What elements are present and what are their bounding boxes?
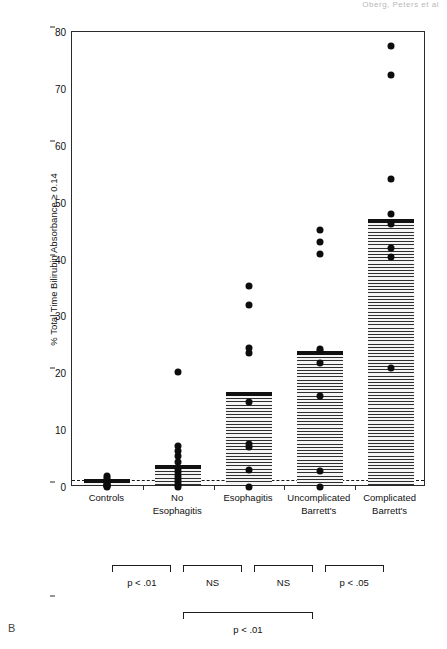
scatter-point [316, 226, 323, 233]
scatter-point [387, 245, 394, 252]
y-tick-mark [50, 140, 55, 141]
x-category-label: ComplicatedBarrett's [354, 492, 425, 517]
y-tick-label: 40 [55, 254, 72, 265]
scatter-point [387, 211, 394, 218]
scatter-point [387, 175, 394, 182]
x-category-label: Controls [71, 492, 142, 505]
scatter-point [175, 369, 182, 376]
scatter-point [104, 472, 111, 479]
y-tick-label: 80 [55, 27, 72, 38]
significance-bracket [325, 565, 384, 572]
x-category-label: UncomplicatedBarrett's [283, 492, 354, 517]
scatter-point [246, 466, 253, 473]
y-tick-label: 60 [55, 140, 72, 151]
scatter-point [316, 239, 323, 246]
y-tick-mark [50, 27, 55, 28]
x-tick-mark [284, 485, 285, 490]
x-category-label: NoEsophagitis [142, 492, 213, 517]
significance-bracket [183, 612, 313, 619]
bar [368, 222, 414, 485]
y-tick-label: 50 [55, 197, 72, 208]
y-tick-label: 0 [60, 482, 72, 493]
plot-area: % Total Time Bilirubin Absorbance ≥ 0.14… [71, 31, 425, 486]
scatter-point [246, 484, 253, 491]
scatter-point [316, 250, 323, 257]
scatter-point [175, 465, 182, 472]
x-tick-mark [214, 485, 215, 490]
significance-bracket [254, 565, 313, 572]
significance-label: NS [183, 577, 242, 588]
y-tick-mark [50, 482, 55, 483]
y-tick-label: 10 [55, 425, 72, 436]
significance-label: p < .05 [325, 577, 384, 588]
running-head: Oberg, Peters et al [362, 0, 439, 9]
scatter-point [316, 393, 323, 400]
x-category-label: Esophagitis [213, 492, 284, 505]
figure-panel-b: Oberg, Peters et al % Total Time Bilirub… [0, 0, 447, 649]
scatter-point [316, 360, 323, 367]
scatter-point [387, 221, 394, 228]
scatter-point [246, 398, 253, 405]
y-tick-label: 20 [55, 368, 72, 379]
scatter-point [246, 282, 253, 289]
significance-label: NS [254, 577, 313, 588]
y-tick-mark [50, 254, 55, 255]
scatter-point [246, 344, 253, 351]
scatter-point [175, 443, 182, 450]
x-tick-mark [355, 485, 356, 490]
x-tick-mark [143, 485, 144, 490]
scatter-point [387, 364, 394, 371]
significance-bracket [183, 565, 242, 572]
significance-label: p < .01 [183, 624, 313, 635]
bar-median-cap [226, 392, 272, 396]
significance-bracket [112, 565, 171, 572]
scatter-point [387, 42, 394, 49]
y-tick-label: 30 [55, 311, 72, 322]
scatter-point [316, 484, 323, 491]
scatter-point [387, 253, 394, 260]
scatter-point [246, 302, 253, 309]
scatter-point [316, 346, 323, 353]
scatter-point [246, 440, 253, 447]
panel-label: B [8, 622, 15, 634]
scatter-point [316, 468, 323, 475]
y-tick-mark [50, 368, 55, 369]
y-tick-mark [50, 595, 55, 596]
significance-label: p < .01 [112, 577, 171, 588]
bar [297, 354, 343, 485]
scatter-point [387, 71, 394, 78]
y-tick-label: 70 [55, 83, 72, 94]
